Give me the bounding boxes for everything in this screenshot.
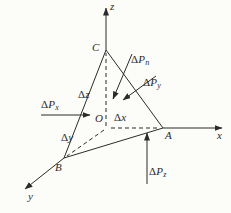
y-axis-label: y bbox=[28, 191, 33, 202]
z-axis-label: z bbox=[110, 1, 114, 12]
vertex-a-label: A bbox=[165, 130, 172, 141]
edge-ba bbox=[64, 128, 163, 158]
force-arrow-delta-pn bbox=[113, 54, 132, 99]
origin-o-label: O bbox=[95, 113, 103, 124]
force-delta-pn-label: ΔPn bbox=[131, 54, 149, 67]
x-axis-label: x bbox=[217, 130, 222, 141]
force-delta-px-label: ΔPx bbox=[41, 99, 59, 112]
stress-tetrahedron-diagram: z x y C O A B Δz Δx Δy ΔPx ΔPn ΔPy ΔPz bbox=[0, 0, 231, 213]
force-delta-pz-label: ΔPz bbox=[149, 166, 167, 179]
delta-z-label: Δz bbox=[78, 89, 90, 100]
vertex-b-label: B bbox=[55, 162, 62, 173]
force-delta-py-label: ΔPy bbox=[143, 77, 161, 90]
vertex-c-label: C bbox=[92, 42, 100, 53]
delta-x-label: Δx bbox=[114, 112, 126, 123]
diagram-canvas bbox=[0, 0, 231, 213]
delta-y-label: Δy bbox=[61, 132, 73, 143]
